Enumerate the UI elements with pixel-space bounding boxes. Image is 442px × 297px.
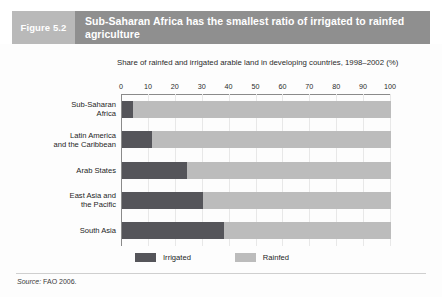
bar-row bbox=[122, 131, 390, 148]
y-category-label: South Asia bbox=[8, 226, 116, 235]
figure-number-label: Figure 5.2 bbox=[21, 22, 67, 33]
bar-row bbox=[122, 192, 390, 209]
bar-segment-rainfed bbox=[187, 162, 391, 179]
x-tick-label: 60 bbox=[278, 82, 286, 91]
y-category-label: East Asia andthe Pacific bbox=[8, 191, 116, 209]
x-tick-label: 100 bbox=[384, 82, 396, 91]
figure-number-block: Figure 5.2 bbox=[12, 11, 75, 44]
bar-segment-rainfed bbox=[224, 222, 391, 239]
y-category-label: Latin Americaand the Caribbean bbox=[8, 131, 116, 149]
source-text: FAO 2006. bbox=[43, 278, 76, 285]
x-tick-label: 40 bbox=[225, 82, 233, 91]
x-tick-label: 70 bbox=[305, 82, 313, 91]
chart-legend: IrrigatedRainfed bbox=[135, 251, 333, 263]
y-axis-category-labels: Sub-SaharanAfricaLatin Americaand the Ca… bbox=[8, 94, 116, 246]
chart-area: Share of rainfed and irrigated arable la… bbox=[0, 44, 442, 297]
y-category-label: Arab States bbox=[8, 166, 116, 175]
legend-item-irrigated[interactable]: Irrigated bbox=[135, 253, 191, 262]
bar-row bbox=[122, 222, 390, 239]
bar-segment-rainfed bbox=[133, 101, 391, 118]
source-label: Source: bbox=[17, 278, 41, 285]
figure-header: Figure 5.2 Sub-Saharan Africa has the sm… bbox=[12, 11, 430, 44]
bar-segment-irrigated bbox=[122, 192, 203, 209]
x-tick-label: 0 bbox=[119, 82, 123, 91]
x-tick-label: 90 bbox=[359, 82, 367, 91]
bar-segment-irrigated bbox=[122, 101, 133, 118]
legend-label: Rainfed bbox=[263, 253, 289, 262]
figure-card: Figure 5.2 Sub-Saharan Africa has the sm… bbox=[0, 0, 442, 297]
bar-segment-irrigated bbox=[122, 222, 224, 239]
x-tick-label: 50 bbox=[252, 82, 260, 91]
legend-swatch-rainfed bbox=[235, 253, 256, 262]
bar-segment-irrigated bbox=[122, 131, 152, 148]
bar-segment-irrigated bbox=[122, 162, 187, 179]
x-tick-label: 20 bbox=[171, 82, 179, 91]
y-category-label: Sub-SaharanAfrica bbox=[8, 100, 116, 118]
bar-segment-rainfed bbox=[152, 131, 391, 148]
chart-subtitle: Share of rainfed and irrigated arable la… bbox=[117, 58, 417, 68]
bar-segment-rainfed bbox=[203, 192, 391, 209]
x-tick-label: 10 bbox=[144, 82, 152, 91]
plot-area bbox=[121, 94, 390, 246]
x-tick-label: 80 bbox=[332, 82, 340, 91]
x-axis-tick-labels: 0102030405060708090100 bbox=[121, 82, 390, 93]
bar-row bbox=[122, 101, 390, 118]
legend-item-rainfed[interactable]: Rainfed bbox=[235, 253, 289, 262]
legend-swatch-irrigated bbox=[135, 253, 156, 262]
source-note: Source: FAO 2006. bbox=[17, 278, 77, 285]
figure-title-block: Sub-Saharan Africa has the smallest rati… bbox=[75, 11, 430, 44]
x-tick-label: 30 bbox=[198, 82, 206, 91]
figure-title: Sub-Saharan Africa has the smallest rati… bbox=[85, 15, 422, 40]
bar-row bbox=[122, 162, 390, 179]
legend-label: Irrigated bbox=[163, 253, 191, 262]
source-divider bbox=[16, 273, 426, 274]
